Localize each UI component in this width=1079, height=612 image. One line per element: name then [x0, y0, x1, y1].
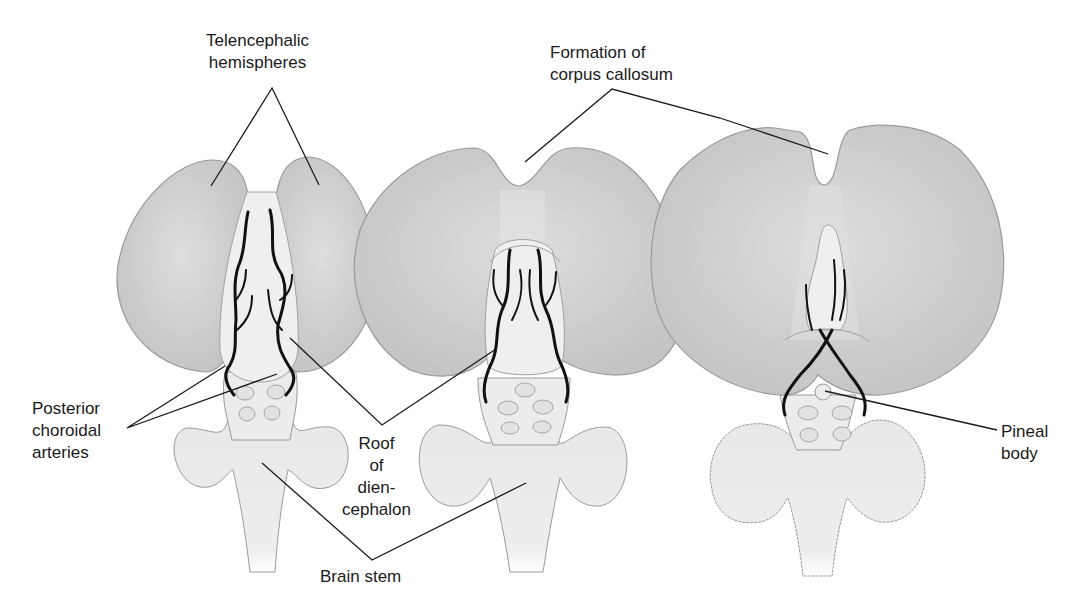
label-roof-of-diencephalon: Roof of dien- cephalon: [342, 433, 411, 521]
label-pineal-body: Pineal body: [1001, 421, 1048, 465]
label-telencephalic-hemispheres: Telencephalic hemispheres: [206, 30, 309, 74]
stage-late: [651, 125, 1003, 576]
label-brain-stem: Brain stem: [320, 566, 401, 588]
stage-early: [117, 157, 376, 572]
diencephalon-roof-middle: [485, 240, 564, 375]
label-corpus-callosum: Formation of corpus callosum: [550, 42, 673, 86]
label-posterior-choroidal-arteries: Posterior choroidal arteries: [32, 398, 101, 464]
diagram-canvas: Telencephalic hemispheres Formation of c…: [0, 0, 1079, 612]
brainstem-middle: [419, 378, 627, 572]
brainstem-late: [710, 395, 925, 576]
brain-development-illustration: [0, 0, 1079, 612]
